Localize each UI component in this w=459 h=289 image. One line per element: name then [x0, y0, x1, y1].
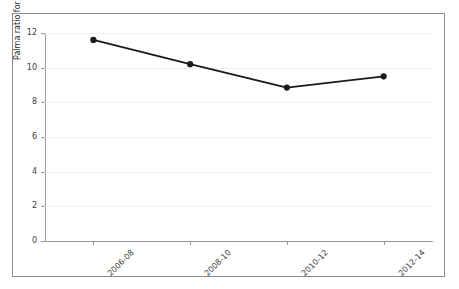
gridline — [45, 241, 432, 242]
y-tick-label: 2 — [11, 202, 37, 210]
x-tick-mark — [190, 241, 191, 245]
x-tick-mark — [93, 241, 94, 245]
y-tick-label: 6 — [11, 133, 37, 141]
gridline — [45, 68, 432, 69]
y-tick-label: 0 — [11, 237, 37, 245]
y-tick-mark — [41, 172, 45, 173]
y-tick-mark — [41, 33, 45, 34]
chart-figure: Palma ratio for household wealth 0246810… — [0, 0, 459, 289]
x-tick-mark — [384, 241, 385, 245]
gridline — [45, 172, 432, 173]
x-tick-mark — [287, 241, 288, 245]
gridline — [45, 102, 432, 103]
y-tick-mark — [41, 241, 45, 242]
y-tick-label: 12 — [11, 29, 37, 37]
y-tick-mark — [41, 206, 45, 207]
gridline — [45, 137, 432, 138]
y-tick-mark — [41, 102, 45, 103]
y-tick-label: 10 — [11, 64, 37, 72]
y-tick-label: 4 — [11, 168, 37, 176]
y-tick-mark — [41, 137, 45, 138]
y-tick-label: 8 — [11, 98, 37, 106]
plot-area — [45, 33, 432, 241]
gridline — [45, 206, 432, 207]
y-tick-mark — [41, 68, 45, 69]
gridline — [45, 33, 432, 34]
